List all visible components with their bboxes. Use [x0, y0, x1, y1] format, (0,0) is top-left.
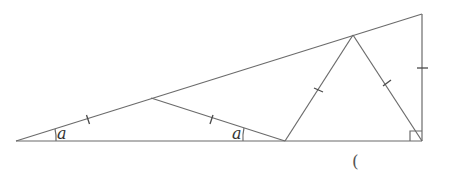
answer-bracket: ( [352, 151, 359, 171]
tick-mark-PQ [210, 115, 213, 124]
angle-arc-Q [243, 128, 244, 141]
segment-PQ [151, 98, 285, 141]
segment-RC [353, 35, 422, 141]
geometry-figure: a a ( [0, 0, 460, 186]
angle-label-a-left: a [57, 124, 67, 143]
segment-AT [16, 14, 422, 141]
angle-arc-A [55, 129, 56, 141]
angle-label-a-right: a [232, 124, 242, 143]
tick-mark-AP [87, 115, 90, 124]
segment-QR [285, 35, 353, 141]
